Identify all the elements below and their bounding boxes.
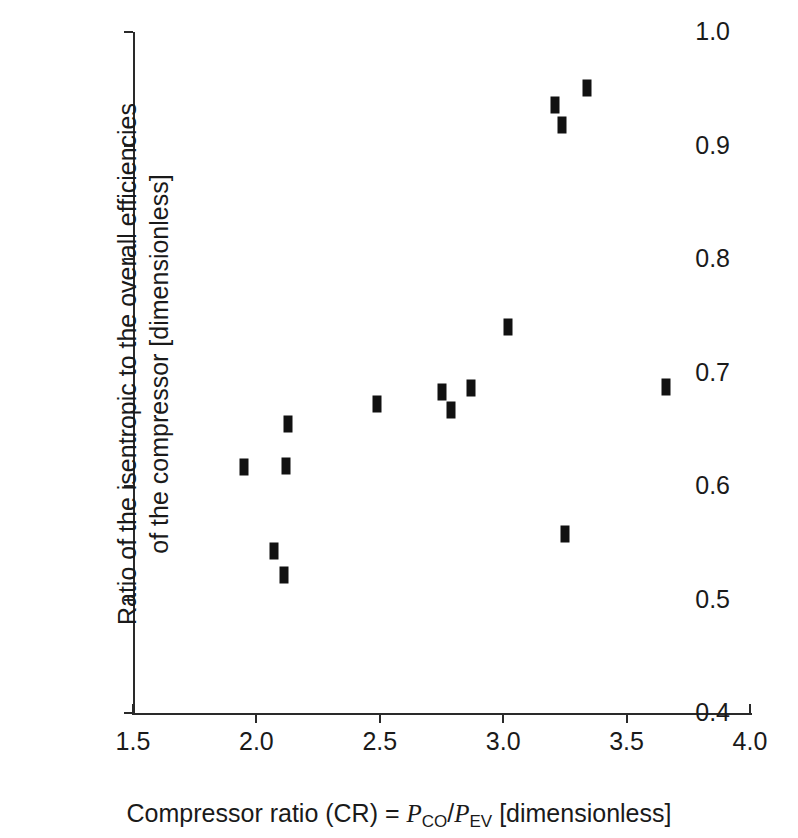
x-axis-title-suffix: [dimensionless]	[492, 799, 671, 827]
data-point	[583, 79, 592, 96]
x-axis-title: Compressor ratio (CR) = PCO/PEV [dimensi…	[0, 798, 798, 832]
x-tick-label-2.5: 2.5	[362, 729, 397, 754]
data-point	[269, 542, 278, 559]
x-axis-line	[133, 713, 752, 715]
x-tick-label-3.0: 3.0	[486, 729, 521, 754]
plot-area: 1.00.90.80.70.60.50.4 1.52.02.53.03.54.0…	[133, 32, 750, 713]
y-axis-title-line-2: of the compressor [dimensionless]	[143, 0, 175, 814]
x-tick-3.5	[626, 713, 628, 723]
y-tick-label-0.9: 0.9	[695, 133, 730, 158]
data-point	[447, 401, 456, 418]
x-tick-label-3.5: 3.5	[609, 729, 644, 754]
x-axis-title-p-co: P	[406, 800, 421, 827]
y-tick-label-0.6: 0.6	[695, 473, 730, 498]
data-point	[558, 117, 567, 134]
data-point	[662, 379, 671, 396]
x-tick-label-4.0: 4.0	[733, 729, 768, 754]
data-point	[437, 383, 446, 400]
y-tick-label-0.7: 0.7	[695, 360, 730, 385]
x-tick-2.5	[379, 713, 381, 723]
y-tick-label-0.4: 0.4	[695, 700, 730, 725]
y-tick-label-0.8: 0.8	[695, 246, 730, 271]
x-axis-title-p-ev: P	[454, 800, 469, 827]
scatter-plot-figure: 1.00.90.80.70.60.50.4 1.52.02.53.03.54.0…	[0, 0, 798, 838]
data-point	[279, 566, 288, 583]
x-axis-title-p-co-subscript: CO	[422, 812, 448, 831]
x-tick-2.0	[255, 713, 257, 723]
x-tick-3.0	[502, 713, 504, 723]
y-axis-title: Ratio of the isentropic to the overall e…	[111, 0, 175, 814]
data-point	[467, 380, 476, 397]
data-point	[560, 525, 569, 542]
y-tick-label-1.0: 1.0	[695, 19, 730, 44]
data-point	[240, 458, 249, 475]
data-point	[284, 415, 293, 432]
data-point	[504, 319, 513, 336]
x-axis-title-prefix: Compressor ratio (CR) =	[127, 799, 407, 827]
data-point	[282, 457, 291, 474]
x-tick-label-2.0: 2.0	[239, 729, 274, 754]
y-axis-title-line-1: Ratio of the isentropic to the overall e…	[111, 0, 143, 814]
y-tick-label-0.5: 0.5	[695, 587, 730, 612]
x-tick-4.0	[749, 704, 751, 715]
x-axis-title-p-ev-subscript: EV	[470, 812, 493, 831]
data-point	[373, 396, 382, 413]
data-point	[551, 96, 560, 113]
